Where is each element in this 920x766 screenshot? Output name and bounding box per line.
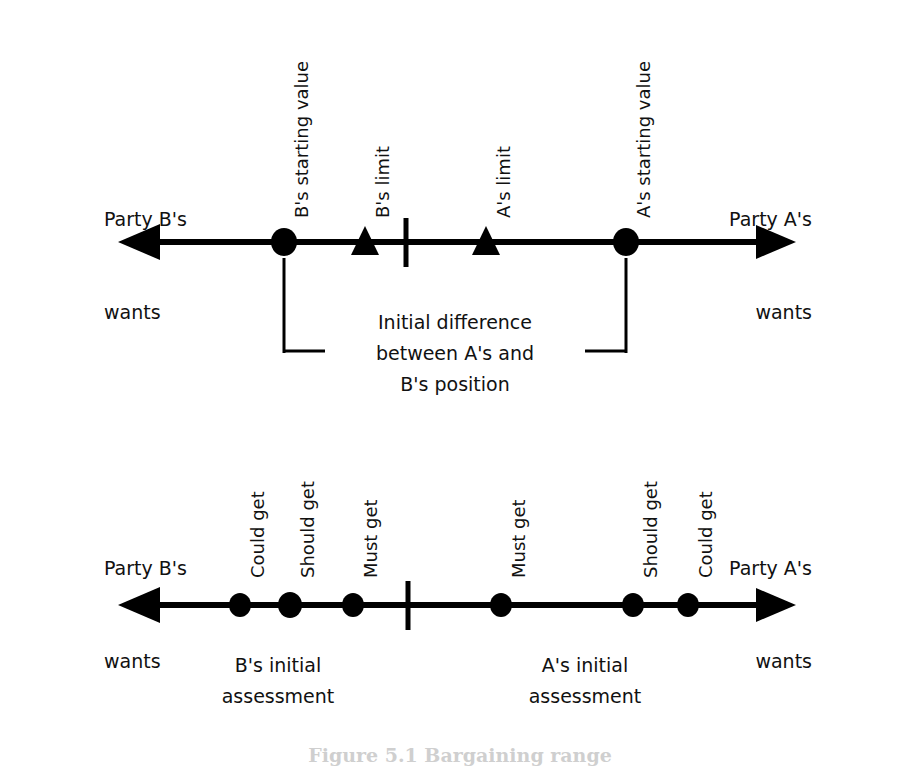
- top-left-party-line1: Party B's: [104, 204, 274, 235]
- marker-b-should-get: [278, 592, 302, 618]
- marker-a-starting-value: [613, 228, 639, 256]
- b-initial-assessment-label: B's initial assessment: [178, 650, 378, 712]
- top-left-party-label: Party B's wants: [104, 142, 274, 390]
- a-initial-assessment-line2: assessment: [485, 681, 685, 712]
- marker-b-must-get: [342, 593, 364, 617]
- top-right-party-line2: wants: [640, 297, 812, 328]
- a-initial-assessment-line1: A's initial: [485, 650, 685, 681]
- b-initial-assessment-line1: B's initial: [178, 650, 378, 681]
- b-initial-assessment-line2: assessment: [178, 681, 378, 712]
- label-b-could-get: Could get: [247, 491, 268, 578]
- label-a-limit: A's limit: [493, 146, 514, 218]
- marker-a-must-get: [490, 593, 512, 617]
- a-initial-assessment-label: A's initial assessment: [485, 650, 685, 712]
- initial-difference-line3: B's position: [330, 369, 580, 400]
- label-a-should-get: Should get: [640, 481, 661, 578]
- figure-caption: Figure 5.1 Bargaining range: [0, 744, 920, 766]
- label-a-could-get: Could get: [695, 491, 716, 578]
- initial-difference-line1: Initial difference: [330, 307, 580, 338]
- label-a-starting-value: A's starting value: [633, 61, 654, 218]
- initial-difference-line2: between A's and: [330, 338, 580, 369]
- marker-a-limit: [472, 226, 500, 255]
- top-left-party-line2: wants: [104, 297, 274, 328]
- label-b-limit: B's limit: [372, 146, 393, 218]
- bottom-right-party-line1: Party A's: [640, 553, 812, 584]
- top-right-party-line1: Party A's: [640, 204, 812, 235]
- label-b-starting-value: B's starting value: [291, 61, 312, 218]
- initial-difference-label: Initial difference between A's and B's p…: [330, 307, 580, 400]
- label-a-must-get: Must get: [508, 499, 529, 578]
- label-b-must-get: Must get: [360, 499, 381, 578]
- top-right-party-label: Party A's wants: [640, 142, 812, 390]
- label-b-should-get: Should get: [297, 481, 318, 578]
- marker-b-starting-value: [271, 228, 297, 256]
- marker-b-limit: [351, 226, 379, 255]
